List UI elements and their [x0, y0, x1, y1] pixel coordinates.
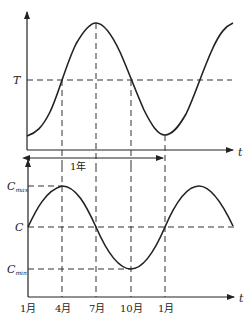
- threshold-label: T: [13, 74, 22, 87]
- c-min-label: Cmin: [7, 263, 27, 276]
- bottom-chart: t Cmax C Cmin 1月 4月 7月 10月 1月: [7, 160, 244, 314]
- month-label: 7月: [89, 303, 105, 314]
- bottom-x-axis-label: t: [239, 292, 244, 305]
- c-label: C: [15, 221, 24, 234]
- one-year-label: 1年: [70, 160, 86, 172]
- month-label: 10月: [120, 303, 143, 314]
- top-chart: t T 1年: [13, 12, 243, 172]
- month-labels: 1月 4月 7月 10月 1月: [20, 303, 174, 314]
- top-vertical-guides: [62, 23, 165, 166]
- month-label: 1月: [20, 303, 36, 314]
- bottom-vertical-guides: [62, 166, 165, 297]
- top-x-axis-label: t: [238, 146, 243, 159]
- month-label: 1月: [158, 303, 174, 314]
- month-label: 4月: [55, 303, 71, 314]
- c-max-label: Cmax: [7, 180, 29, 193]
- diagram-canvas: t T 1年 t Cmax C Cmin: [0, 0, 247, 325]
